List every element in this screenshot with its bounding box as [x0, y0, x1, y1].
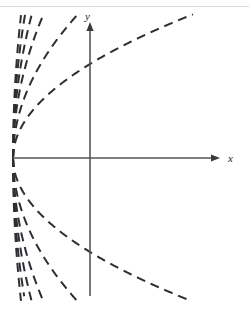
figure-container: x y [0, 0, 249, 311]
solution-curve [13, 158, 191, 301]
x-axis-arrowhead [211, 154, 220, 161]
y-axis-label: y [84, 10, 90, 22]
axes-group [13, 22, 220, 296]
solution-curve [13, 14, 193, 158]
plot-canvas: x y [0, 0, 249, 311]
y-axis-arrowhead [86, 22, 93, 31]
x-axis-label: x [227, 152, 233, 164]
